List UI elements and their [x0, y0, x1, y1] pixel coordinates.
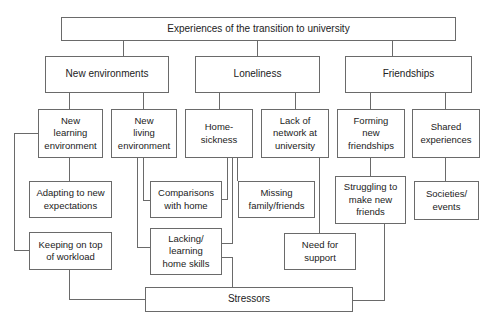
code-label: Struggling to make new friends: [344, 181, 397, 219]
theme-new-environments: New environments: [45, 56, 169, 93]
code-comparisons-with-home: Comparisons with home: [150, 181, 222, 218]
code-label: Missing family/friends: [249, 187, 305, 212]
theme-label: Friendships: [383, 68, 435, 81]
subtheme-homesickness: Home- sickness: [185, 109, 253, 158]
code-need-for-support: Need for support: [284, 233, 356, 270]
code-struggling-to-make-new-friends: Struggling to make new friends: [335, 176, 406, 224]
subtheme-label: Lack of network at university: [273, 115, 317, 153]
subtheme-lack-of-network: Lack of network at university: [261, 109, 329, 158]
subtheme-label: New living environment: [118, 115, 170, 153]
outcome-label: Stressors: [228, 293, 270, 306]
code-label: Societies/ events: [426, 188, 467, 213]
subtheme-shared-experiences: Shared experiences: [412, 109, 480, 158]
title-label: Experiences of the transition to univers…: [167, 23, 349, 36]
code-missing-family-friends: Missing family/friends: [238, 181, 315, 218]
code-label: Lacking/ learning home skills: [163, 233, 210, 271]
code-label: Adapting to new expectations: [36, 187, 104, 212]
thematic-map-diagram: Experiences of the transition to univers…: [0, 0, 493, 323]
theme-label: New environments: [66, 68, 149, 81]
code-lacking-learning-home-skills: Lacking/ learning home skills: [150, 228, 222, 275]
code-adapting-to-new-expectations: Adapting to new expectations: [29, 181, 112, 218]
theme-friendships: Friendships: [345, 56, 472, 93]
subtheme-label: New learning environment: [44, 115, 96, 153]
subtheme-label: Forming new friendships: [348, 115, 394, 153]
subtheme-label: Shared experiences: [420, 121, 471, 146]
code-societies-events: Societies/ events: [414, 181, 479, 220]
outcome-stressors: Stressors: [145, 287, 353, 312]
theme-loneliness: Loneliness: [195, 56, 320, 93]
subtheme-label: Home- sickness: [201, 121, 237, 146]
code-label: Need for support: [302, 239, 338, 264]
code-keeping-on-top-of-workload: Keeping on top of workload: [29, 232, 112, 270]
subtheme-forming-new-friendships: Forming new friendships: [337, 109, 405, 158]
code-label: Comparisons with home: [158, 187, 214, 212]
title-node: Experiences of the transition to univers…: [61, 17, 456, 41]
subtheme-new-learning-environment: New learning environment: [38, 109, 103, 158]
theme-label: Loneliness: [234, 68, 282, 81]
connector-lines: [0, 0, 493, 323]
subtheme-new-living-environment: New living environment: [111, 109, 177, 158]
code-label: Keeping on top of workload: [39, 239, 103, 264]
